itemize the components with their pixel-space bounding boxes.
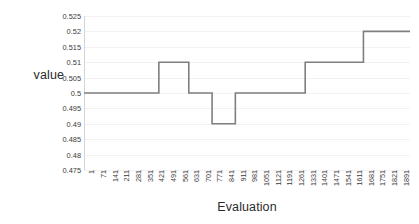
- y-axis-tick-label: 0.475: [44, 166, 81, 175]
- series-line: [84, 16, 410, 170]
- x-axis-tick-label: 771: [216, 170, 223, 182]
- x-axis-tick-label: 1261: [298, 170, 305, 186]
- x-axis-tick-label: 1121: [275, 170, 282, 185]
- y-axis-tick-label: 0.485: [44, 135, 81, 144]
- y-axis-tick-label: 0.51: [44, 58, 81, 67]
- y-axis-tick-label: 0.505: [44, 73, 81, 82]
- x-axis-tick-label: 71: [100, 170, 107, 178]
- x-axis-tick-label: 1: [88, 170, 95, 174]
- x-axis-tick-label: 1821: [391, 170, 398, 186]
- x-axis-tick-label: 421: [158, 170, 165, 182]
- x-axis-tick-labels: 1711412112813514214915616317017718419119…: [84, 170, 410, 200]
- x-axis-tick-label: 1471: [333, 170, 340, 186]
- x-axis-tick-label: 911: [240, 170, 247, 181]
- x-axis-tick-label: 1751: [379, 170, 386, 186]
- x-axis-tick-label: 981: [251, 170, 258, 182]
- x-axis-tick-label: 1401: [321, 170, 328, 186]
- x-axis-tick-label: 1331: [310, 170, 317, 186]
- x-axis-tick-label: 281: [135, 170, 142, 182]
- y-axis-tick-label: 0.525: [44, 12, 81, 21]
- x-axis-tick-label: 1541: [345, 170, 352, 186]
- x-axis-tick-label: 491: [170, 170, 177, 182]
- x-axis-tick-label: 1191: [286, 170, 293, 185]
- y-axis-tick-label: 0.52: [44, 27, 81, 36]
- y-axis-tick-label: 0.515: [44, 42, 81, 51]
- x-axis-tick-label: 1891: [403, 170, 410, 186]
- y-axis-tick-labels: 0.5250.520.5150.510.5050.50.4950.490.485…: [44, 16, 81, 170]
- x-axis-tick-label: 631: [193, 170, 200, 182]
- x-axis-tick-label: 701: [205, 170, 212, 182]
- x-axis-tick-label: 1611: [356, 170, 363, 185]
- x-axis-tick-label: 141: [112, 170, 119, 182]
- y-axis-tick-label: 0.49: [44, 119, 81, 128]
- x-axis-tick-label: 841: [228, 170, 235, 182]
- y-axis-tick-label: 0.48: [44, 150, 81, 159]
- plot-area: [84, 16, 410, 170]
- y-axis-tick-label: 0.495: [44, 104, 81, 113]
- step-line-chart: value 0.5250.520.5150.510.5050.50.4950.4…: [0, 0, 419, 224]
- y-axis-tick-label: 0.5: [44, 89, 81, 98]
- x-axis-title: Evaluation: [84, 200, 410, 214]
- x-axis-tick-label: 211: [123, 170, 130, 181]
- x-axis-tick-label: 561: [182, 170, 189, 182]
- x-axis-tick-label: 1051: [263, 170, 270, 186]
- x-axis-tick-label: 351: [147, 170, 154, 182]
- x-axis-tick-label: 1681: [368, 170, 375, 186]
